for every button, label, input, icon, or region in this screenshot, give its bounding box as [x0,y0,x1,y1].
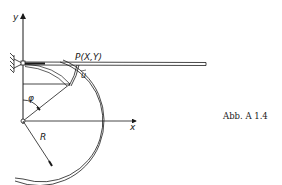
rod [25,62,206,66]
radius-arrow-icon [49,161,52,166]
point-label: P(X,Y) [75,52,102,62]
angle-label: φ [28,93,34,103]
radius-label: R [40,132,46,142]
figure-caption: Abb. A 1.4 [222,111,268,121]
y-axis-label: y [12,12,19,22]
displacement-label: u [81,71,86,80]
deformed-rod [25,64,70,86]
x-axis-label: x [129,122,136,132]
radius-line-R [23,121,51,164]
mechanics-diagram: y x P(X,Y) u [0,0,282,185]
